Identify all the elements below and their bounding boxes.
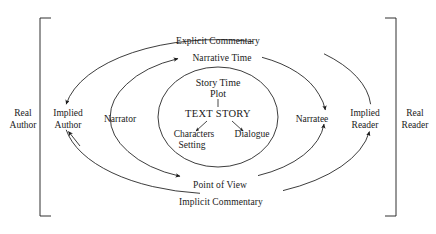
implied-reader-line-2: Reader — [341, 120, 389, 132]
arrow-to-implied-author-top — [70, 88, 83, 103]
implied-reader-line-1: Implied — [341, 108, 389, 120]
real-author-line-2: Author — [8, 120, 38, 132]
implied-author-line-1: Implied — [44, 108, 92, 120]
implied-author-line-2: Author — [44, 120, 92, 132]
label-implied-reader: Implied Reader — [341, 108, 389, 132]
label-story-time: Story Time — [178, 77, 258, 88]
diagram-canvas: Real Author Implied Author Narrator Narr… — [0, 0, 436, 234]
real-reader-line-1: Real — [398, 108, 432, 120]
narrator-line-1: Narrator — [96, 114, 144, 125]
narratee-line-1: Narratee — [288, 114, 336, 125]
real-reader-line-2: Reader — [398, 120, 432, 132]
label-setting: Setting — [166, 140, 218, 151]
label-real-author: Real Author — [8, 108, 38, 132]
label-real-reader: Real Reader — [398, 108, 432, 132]
label-narrator: Narrator — [96, 114, 144, 125]
label-narratee: Narratee — [288, 114, 336, 125]
label-plot: Plot — [198, 88, 238, 99]
label-implicit-commentary: Implicit Commentary — [161, 197, 281, 208]
label-explicit-commentary: Explicit Commentary — [158, 36, 278, 47]
label-text-story: TEXT STORY — [173, 108, 263, 120]
label-dialogue: Dialogue — [224, 129, 280, 140]
real-author-line-1: Real — [8, 108, 38, 120]
label-implied-author: Implied Author — [44, 108, 92, 132]
label-point-of-view: Point of View — [182, 180, 258, 191]
label-narrative-time: Narrative Time — [178, 53, 266, 64]
label-characters: Characters — [163, 129, 225, 140]
